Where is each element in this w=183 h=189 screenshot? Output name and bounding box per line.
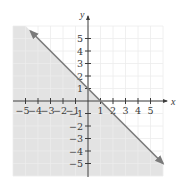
y-axis-label: y [79,9,85,20]
x-tick-label: 1 [97,105,103,116]
x-tick-label: 5 [147,105,153,116]
plot-area: −5−4−3−2−11234554321−1−2−3−4−5xy [13,9,176,177]
y-tick-label: 5 [77,33,83,44]
x-tick-label: 3 [122,105,128,116]
y-tick-label: 1 [77,83,83,94]
y-tick-label: 3 [77,58,83,69]
x-axis-label: x [170,96,176,107]
y-tick-label: −2 [69,121,83,132]
y-tick-label: 4 [77,46,83,57]
y-tick-label: −1 [69,108,83,119]
y-tick-label: −4 [69,146,83,157]
y-tick-label: −5 [69,158,83,169]
y-tick-label: −3 [69,133,83,144]
x-tick-label: 4 [135,105,141,116]
inequality-graph: −5−4−3−2−11234554321−1−2−3−4−5xy [0,0,183,189]
